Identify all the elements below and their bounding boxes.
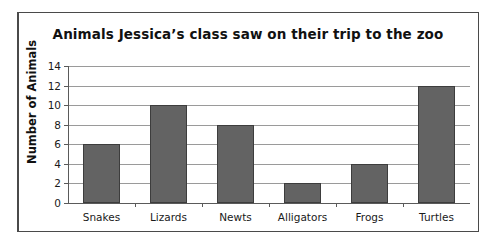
gridline <box>68 183 470 184</box>
x-tick-mark <box>403 203 404 207</box>
x-axis-label: Newts <box>202 211 269 223</box>
x-axis-label: Alligators <box>269 211 336 223</box>
x-axis-label: Lizards <box>135 211 202 223</box>
y-tick-label: 0 <box>54 198 61 209</box>
x-axis-label: Snakes <box>68 211 135 223</box>
y-axis-line <box>68 66 69 203</box>
y-axis-title: Number of Animals <box>25 32 39 172</box>
gridline <box>68 144 470 145</box>
chart-title: Animals Jessica’s class saw on their tri… <box>17 26 479 42</box>
y-tick-label: 12 <box>48 80 61 91</box>
gridline <box>68 164 470 165</box>
gridline <box>68 125 470 126</box>
x-axis-label: Frogs <box>336 211 403 223</box>
x-tick-mark <box>202 203 203 207</box>
bar <box>83 144 121 203</box>
bar <box>418 86 456 203</box>
plot-area: 02468101214 SnakesLizardsNewtsAlligators… <box>68 66 470 203</box>
bar <box>150 105 188 203</box>
y-tick-label: 8 <box>54 119 61 130</box>
gridline <box>68 105 470 106</box>
y-tick-label: 6 <box>54 139 61 150</box>
bar <box>217 125 255 203</box>
y-tick-label: 10 <box>48 100 61 111</box>
x-tick-mark <box>135 203 136 207</box>
bar <box>284 183 322 203</box>
y-tick-label: 14 <box>48 61 61 72</box>
bar <box>351 164 389 203</box>
x-tick-mark <box>269 203 270 207</box>
bar-chart-figure: Animals Jessica’s class saw on their tri… <box>0 0 498 252</box>
x-axis-label: Turtles <box>403 211 470 223</box>
gridline <box>68 66 470 67</box>
x-tick-mark <box>336 203 337 207</box>
y-tick-label: 2 <box>54 178 61 189</box>
gridline <box>68 86 470 87</box>
y-tick-label: 4 <box>54 159 61 170</box>
